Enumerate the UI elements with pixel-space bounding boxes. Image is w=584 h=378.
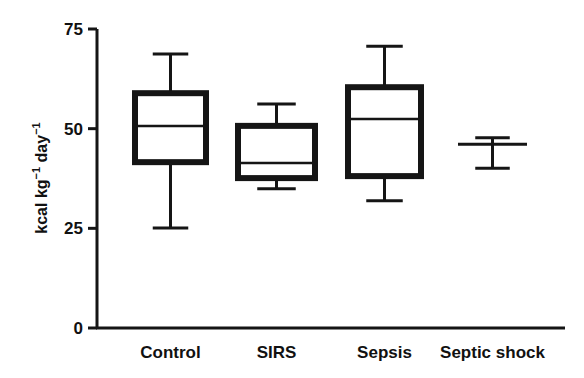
x-axis-labels: ControlSIRSSepsisSeptic shock <box>140 343 545 362</box>
x-category-label: SIRS <box>257 343 297 362</box>
y-tick-label: 0 <box>74 319 83 338</box>
box-sepsis <box>348 46 421 201</box>
box-septic-shock <box>458 138 527 168</box>
superscript: −1 <box>30 167 42 180</box>
box-plot-chart: 0255075 ControlSIRSSepsisSeptic shock kc… <box>0 0 584 378</box>
superscript: −1 <box>30 122 42 135</box>
iqr-box <box>238 126 315 178</box>
y-tick-label: 25 <box>64 219 83 238</box>
iqr-box <box>348 87 421 176</box>
y-tick-label: 75 <box>64 20 83 39</box>
y-axis-label: kcal kg−1 day−1 <box>30 122 50 233</box>
iqr-box <box>135 93 206 162</box>
box-sirs <box>238 104 315 189</box>
y-tick-label: 50 <box>64 120 83 139</box>
axes <box>96 29 565 329</box>
x-category-label: Control <box>140 343 200 362</box>
box-control <box>135 54 206 228</box>
x-category-label: Septic shock <box>440 343 545 362</box>
x-category-label: Sepsis <box>357 343 412 362</box>
y-axis-ticks: 0255075 <box>64 20 97 338</box>
boxes <box>135 46 527 228</box>
